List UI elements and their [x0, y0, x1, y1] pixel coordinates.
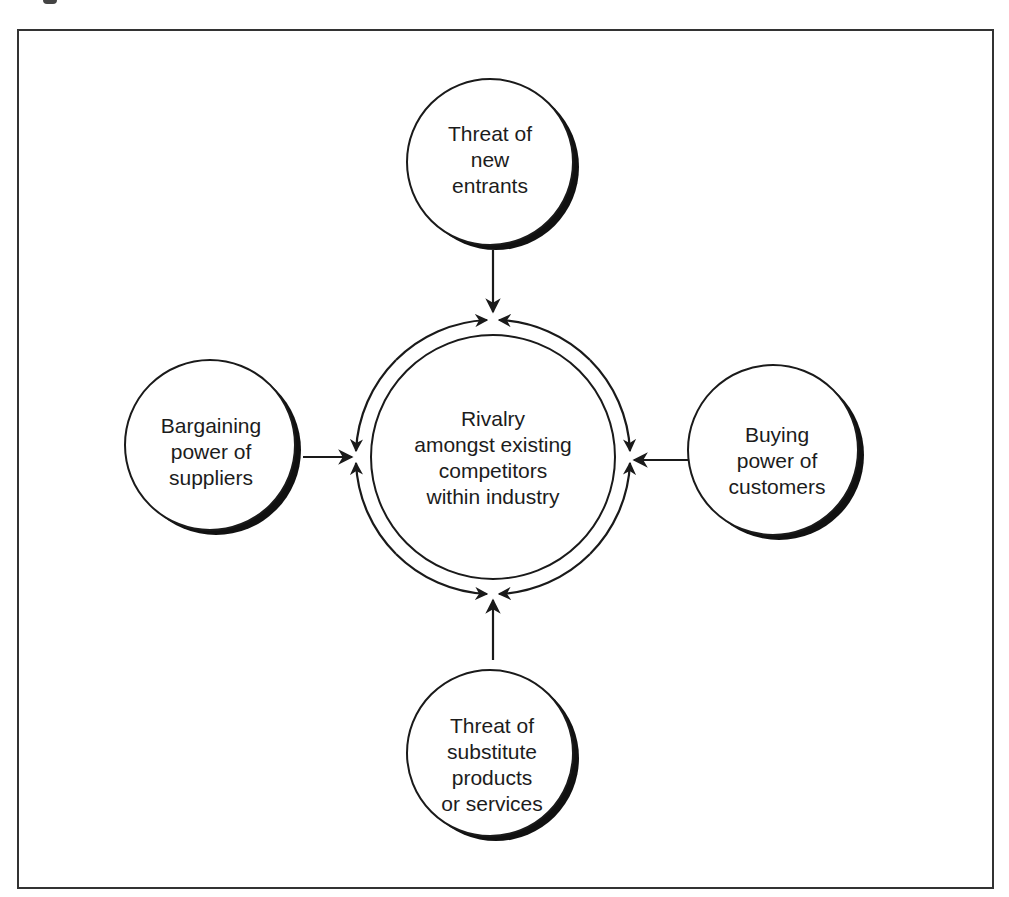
- label-line: or services: [441, 791, 543, 817]
- label-line: substitute: [441, 739, 543, 765]
- center-label-rivalry: Rivalry amongst existing competitors wit…: [414, 406, 572, 510]
- label-line: power of: [729, 448, 826, 474]
- label-line: entrants: [448, 173, 532, 199]
- label-line: within industry: [414, 484, 572, 510]
- label-line: Threat of: [448, 121, 532, 147]
- label-line: amongst existing: [414, 432, 572, 458]
- label-line: suppliers: [161, 465, 261, 491]
- label-line: power of: [161, 439, 261, 465]
- label-line: Bargaining: [161, 413, 261, 439]
- label-line: products: [441, 765, 543, 791]
- force-label-bottom: Threat of substitute products or service…: [441, 713, 543, 817]
- label-line: competitors: [414, 458, 572, 484]
- force-label-left: Bargaining power of suppliers: [161, 413, 261, 491]
- label-line: Rivalry: [414, 406, 572, 432]
- label-line: customers: [729, 474, 826, 500]
- five-forces-diagram: Threat of new entrants Bargaining power …: [0, 0, 1009, 897]
- force-label-right: Buying power of customers: [729, 422, 826, 500]
- force-label-top: Threat of new entrants: [448, 121, 532, 199]
- label-line: Threat of: [441, 713, 543, 739]
- label-line: new: [448, 147, 532, 173]
- label-line: Buying: [729, 422, 826, 448]
